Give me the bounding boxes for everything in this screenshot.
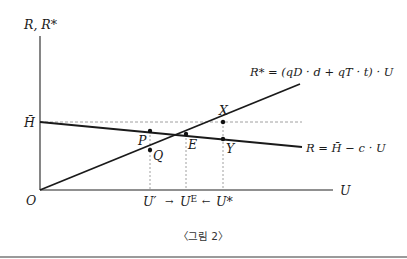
label-y: Y [226, 141, 236, 156]
diagram-canvas: R, R* H̄ O U P Q E X Y R* = (qD · d + qT… [0, 0, 407, 259]
label-e: E [187, 137, 197, 152]
label-q: Q [153, 148, 163, 163]
arrow-right: → [165, 196, 174, 207]
point-e [184, 132, 188, 136]
origin-label: O [26, 193, 36, 208]
r-star-equation: R* = (qD · d + qT · t) · U [249, 65, 394, 79]
label-p: P [137, 133, 147, 148]
point-x [221, 120, 225, 124]
tick-u-e: UE [180, 194, 197, 209]
h-bar-label: H̄ [23, 115, 36, 130]
r-line [40, 122, 302, 147]
x-axis-label: U [340, 183, 351, 198]
y-axis-label: R, R* [23, 17, 58, 32]
point-q [148, 148, 152, 152]
point-p [148, 129, 152, 133]
point-y [221, 137, 225, 141]
tick-u-star: U* [216, 194, 234, 209]
figure-caption: 〈그림 2〉 [178, 230, 228, 242]
arrow-left: ← [202, 196, 210, 207]
label-x: X [218, 103, 229, 118]
bottom-divider [0, 256, 407, 258]
r-star-line [40, 84, 300, 190]
tick-u-prime: U′ [143, 194, 157, 209]
r-equation: R = H̄ − c · U [305, 141, 386, 155]
